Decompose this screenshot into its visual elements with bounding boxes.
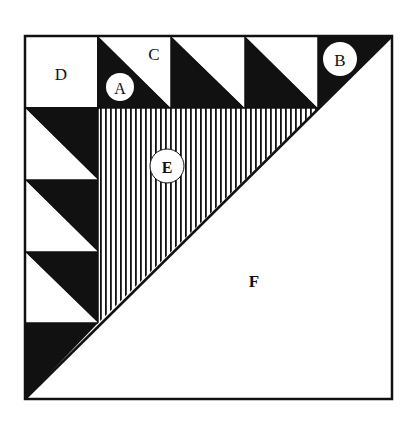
label-f: F — [249, 272, 259, 291]
label-b: B — [334, 51, 345, 70]
label-d: D — [55, 65, 67, 84]
label-c: C — [148, 45, 159, 64]
label-e: E — [162, 159, 173, 176]
quilt-diagram: D A C B E F — [0, 0, 411, 423]
label-a: A — [114, 80, 126, 97]
